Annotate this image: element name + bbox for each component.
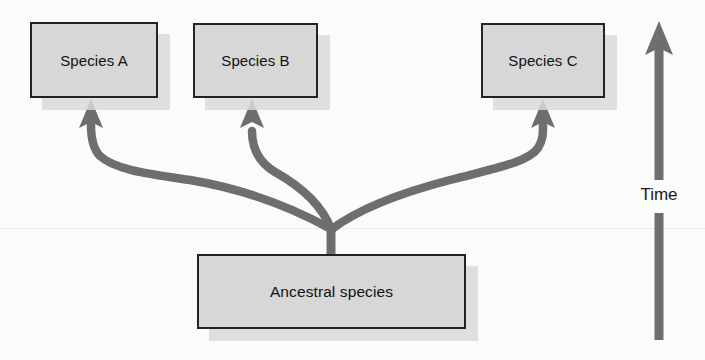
ancestral-species-box[interactable]: Ancestral species xyxy=(197,254,466,329)
branch-path-to-species-a xyxy=(91,125,331,229)
scan-artifact-line xyxy=(0,228,705,229)
ancestral-species-label: Ancestral species xyxy=(270,283,393,301)
species-b-label: Species B xyxy=(221,52,289,69)
diagram-canvas: Species A Species B Species C Ancestral … xyxy=(0,0,705,360)
time-axis-label: Time xyxy=(622,185,696,205)
species-a-box[interactable]: Species A xyxy=(30,22,158,98)
species-a-label: Species A xyxy=(60,52,128,69)
species-c-label: Species C xyxy=(508,52,577,69)
species-c-box[interactable]: Species C xyxy=(481,23,605,98)
branch-path-to-species-c xyxy=(332,125,543,229)
branch-path-to-species-b xyxy=(252,131,331,229)
time-axis-arrowhead xyxy=(645,21,673,55)
species-b-box[interactable]: Species B xyxy=(193,23,318,98)
